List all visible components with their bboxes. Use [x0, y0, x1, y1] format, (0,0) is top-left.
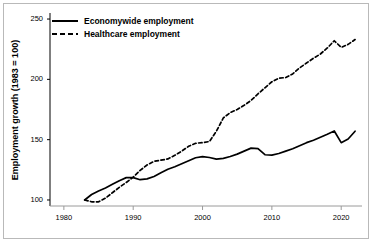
y-tick-label: 100: [17, 195, 43, 204]
legend-item-healthcare: Healthcare employment: [52, 27, 194, 40]
legend-label-healthcare: Healthcare employment: [84, 29, 180, 39]
y-axis-title: Employment growth (1983 = 100): [10, 10, 20, 210]
y-tick-label: 200: [17, 74, 43, 83]
legend-solid-line-icon: [52, 16, 78, 26]
legend-label-economywide: Economywide employment: [84, 16, 194, 26]
x-tick-label: 1990: [118, 213, 148, 222]
legend-dashed-line-icon: [52, 29, 78, 39]
chart-axes: [50, 13, 362, 206]
y-tick-label: 250: [17, 14, 43, 23]
legend-item-economywide: Economywide employment: [52, 14, 194, 27]
chart-series-group: [85, 40, 355, 202]
chart-legend: Economywide employment Healthcare employ…: [52, 14, 194, 40]
x-tick-label: 2010: [257, 213, 287, 222]
series-line-economywide: [85, 131, 355, 200]
x-tick-label: 2020: [326, 213, 356, 222]
y-tick-label: 150: [17, 135, 43, 144]
x-tick-label: 1980: [49, 213, 79, 222]
x-axis-ticks: [64, 206, 341, 210]
x-tick-label: 2000: [188, 213, 218, 222]
